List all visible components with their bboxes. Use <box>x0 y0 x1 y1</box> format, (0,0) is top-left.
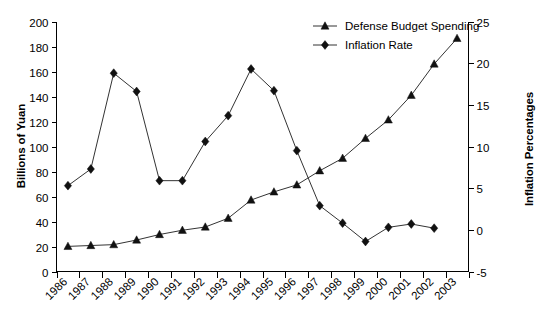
right-tick-label: -5 <box>477 267 487 279</box>
x-tick-label: 1996 <box>272 275 299 302</box>
data-point-marker <box>270 86 277 95</box>
x-tick-label: 1989 <box>111 275 138 302</box>
data-point-marker <box>453 34 461 41</box>
x-tick-label: 1988 <box>89 275 116 302</box>
right-tick-label: 20 <box>477 58 490 70</box>
right-tick-label: 10 <box>477 142 490 154</box>
series-inflation-rate <box>64 65 437 246</box>
data-point-marker <box>293 181 301 188</box>
right-tick-label: 5 <box>477 183 483 195</box>
left-tick-label: 120 <box>29 117 48 129</box>
data-point-marker <box>431 224 438 233</box>
left-tick-label: 200 <box>29 17 48 29</box>
left-tick-label: 20 <box>36 242 49 254</box>
left-tick-label: 180 <box>29 42 48 54</box>
chart-container: 020406080100120140160180200 -50510152025… <box>0 0 552 319</box>
data-point-marker <box>201 223 209 230</box>
data-point-marker <box>339 219 346 228</box>
data-point-marker <box>362 134 370 141</box>
left-tick-label: 140 <box>29 92 48 104</box>
x-tick-label: 2002 <box>409 275 436 302</box>
left-tick-label: 160 <box>29 67 48 79</box>
left-tick-label: 80 <box>36 167 49 179</box>
data-point-marker <box>339 154 347 161</box>
data-point-marker <box>156 176 163 185</box>
x-tick-label: 1992 <box>180 275 207 302</box>
data-point-marker <box>133 87 140 96</box>
x-tick-label: 1990 <box>134 275 161 302</box>
left-tick-label: 40 <box>36 217 49 229</box>
x-tick-label: 1987 <box>66 275 93 302</box>
x-tick-label: 1991 <box>157 275 184 302</box>
left-tick-label: 60 <box>36 192 49 204</box>
series-line <box>68 38 457 246</box>
x-tick-label: 2001 <box>386 275 413 302</box>
right-axis-title: Inflation Percentages <box>523 69 535 229</box>
x-tick-label: 1993 <box>203 275 230 302</box>
data-point-marker <box>316 167 324 174</box>
right-tick-label: 0 <box>477 225 483 237</box>
series-line <box>68 69 434 242</box>
x-tick-label: 1998 <box>317 275 344 302</box>
data-point-marker <box>64 181 71 190</box>
legend-marker <box>321 22 329 29</box>
chart-legend: Defense Budget SpendingInflation Rate <box>313 20 479 51</box>
left-axis-title: Billions of Yuan <box>15 81 27 211</box>
x-tick-label: 1997 <box>295 275 322 302</box>
data-point-marker <box>362 237 369 246</box>
data-point-marker <box>247 65 254 74</box>
x-tick-label: 2000 <box>363 275 390 302</box>
left-axis-ticks: 020406080100120140160180200 <box>29 17 56 279</box>
chart-plot-area: 020406080100120140160180200 -50510152025… <box>0 0 552 319</box>
legend-marker <box>321 41 328 50</box>
series-defense-budget-spending <box>64 34 461 249</box>
data-point-marker <box>316 201 323 210</box>
data-point-marker <box>385 223 392 232</box>
data-point-marker <box>408 220 415 229</box>
x-tick-label: 2003 <box>432 275 459 302</box>
legend-label: Defense Budget Spending <box>345 20 479 32</box>
x-tick-label: 1994 <box>226 275 253 302</box>
right-tick-label: 15 <box>477 100 490 112</box>
data-point-marker <box>224 214 232 221</box>
data-point-marker <box>87 165 94 174</box>
x-tick-label: 1999 <box>340 275 367 302</box>
x-tick-label: 1986 <box>43 275 70 302</box>
data-point-marker <box>110 69 117 78</box>
right-axis-ticks: -50510152025 <box>469 17 490 279</box>
data-point-marker <box>293 146 300 155</box>
x-tick-label: 1995 <box>249 275 276 302</box>
data-point-marker <box>179 176 186 185</box>
left-tick-label: 0 <box>42 267 48 279</box>
legend-label: Inflation Rate <box>345 39 413 51</box>
left-tick-label: 100 <box>29 142 48 154</box>
x-axis-ticks: 1986198719881989199019911992199319941995… <box>43 272 470 303</box>
